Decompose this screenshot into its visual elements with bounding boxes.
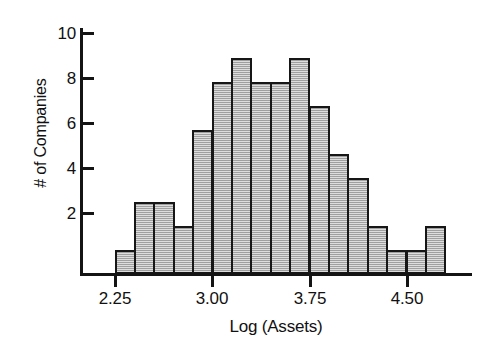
histogram-bar (425, 226, 446, 274)
histogram-figure: # of Companies 10 8 6 4 2 2.25 3.00 3.75… (0, 0, 498, 356)
x-axis-tick-3-75 (309, 276, 312, 287)
histogram-bar (386, 250, 407, 274)
histogram-bar (173, 226, 194, 274)
histogram-bar (328, 154, 349, 274)
x-axis-tick-4-50 (406, 276, 409, 287)
histogram-bar (406, 250, 427, 274)
histogram-bar (212, 82, 233, 274)
x-tick-label-4-50: 4.50 (362, 290, 452, 307)
histogram-bar (309, 106, 330, 274)
x-axis-title: Log (Assets) (80, 318, 472, 335)
histogram-bar (347, 178, 368, 274)
histogram-bar (250, 82, 271, 274)
histogram-bar (367, 226, 388, 274)
x-axis-line (80, 273, 472, 276)
histogram-bar (289, 58, 310, 274)
histogram-bar (115, 250, 136, 274)
histogram-bar (134, 202, 155, 274)
histogram-bar (153, 202, 174, 274)
x-axis-tick-3-00 (211, 276, 214, 287)
x-tick-label-3-00: 3.00 (167, 290, 257, 307)
x-tick-label-3-75: 3.75 (265, 290, 355, 307)
histogram-bar (192, 130, 213, 274)
histogram-bar (231, 58, 252, 274)
x-axis-tick-2-25 (114, 276, 117, 287)
x-tick-label-2-25: 2.25 (70, 290, 160, 307)
histogram-bar (270, 82, 291, 274)
